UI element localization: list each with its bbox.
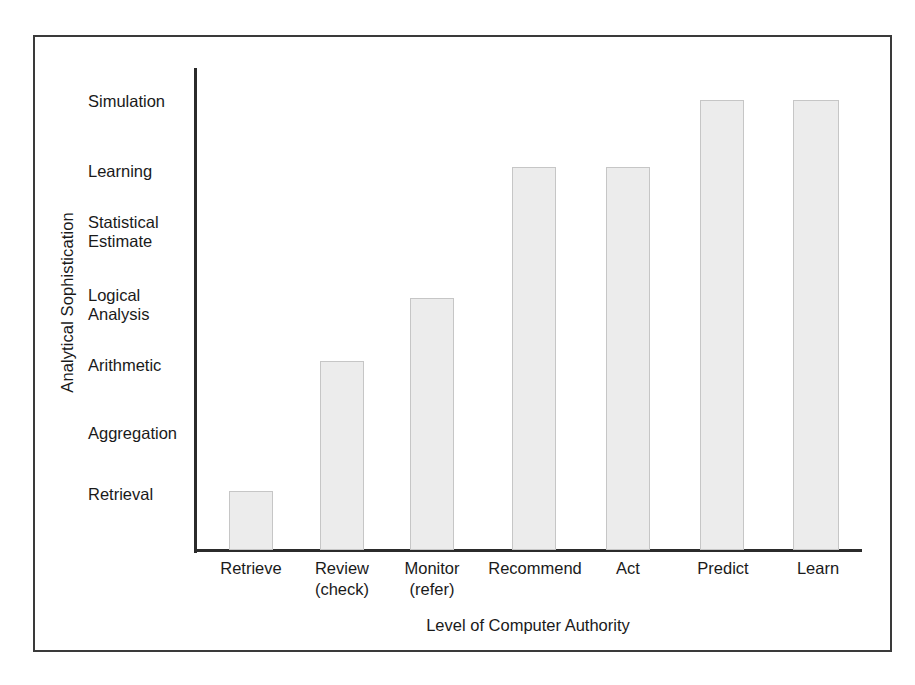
- y-tick-label-text: Retrieval: [88, 485, 186, 504]
- x-tick-label-main: Recommend: [488, 559, 582, 577]
- y-axis-line: [194, 68, 197, 553]
- chart-figure: Analytical Sophistication Simulation Lea…: [0, 0, 915, 685]
- bar-monitor: [410, 298, 454, 550]
- y-tick-learning: Learning: [88, 162, 186, 181]
- y-tick-logical-analysis: Logical Analysis: [88, 286, 186, 324]
- y-tick-label-text: Simulation: [88, 92, 186, 111]
- y-tick-simulation: Simulation: [88, 92, 186, 111]
- x-tick-label-sub: (check): [290, 579, 394, 600]
- x-tick-label-main: Learn: [797, 559, 839, 577]
- bar-act: [606, 167, 650, 550]
- y-tick-retrieval: Retrieval: [88, 485, 186, 504]
- bar-review: [320, 361, 364, 550]
- x-tick-label-main: Monitor: [404, 559, 459, 577]
- x-tick-predict: Predict: [676, 558, 770, 579]
- bar-recommend: [512, 167, 556, 550]
- y-tick-statistical-estimate: Statistical Estimate: [88, 213, 186, 251]
- x-tick-monitor: Monitor (refer): [380, 558, 484, 600]
- x-tick-recommend: Recommend: [470, 558, 600, 579]
- x-tick-review: Review (check): [290, 558, 394, 600]
- y-tick-label-text: Learning: [88, 162, 186, 181]
- y-tick-label-text: Statistical Estimate: [88, 213, 186, 251]
- x-tick-label-main: Review: [315, 559, 369, 577]
- x-tick-label-main: Predict: [697, 559, 748, 577]
- x-tick-retrieve: Retrieve: [199, 558, 303, 579]
- y-tick-aggregation: Aggregation: [88, 424, 186, 443]
- y-tick-arithmetic: Arithmetic: [88, 356, 186, 375]
- bar-predict: [700, 100, 744, 550]
- x-tick-learn: Learn: [772, 558, 864, 579]
- y-tick-label-text: Logical Analysis: [88, 286, 186, 324]
- x-tick-act: Act: [584, 558, 672, 579]
- y-tick-label-text: Aggregation: [88, 424, 186, 443]
- bar-learn: [793, 100, 839, 550]
- x-axis-title: Level of Computer Authority: [194, 616, 862, 635]
- y-axis-title: Analytical Sophistication: [58, 183, 77, 423]
- bar-retrieve: [229, 491, 273, 550]
- x-tick-label-main: Retrieve: [220, 559, 281, 577]
- y-tick-label-text: Arithmetic: [88, 356, 186, 375]
- x-tick-label-main: Act: [616, 559, 640, 577]
- x-tick-label-sub: (refer): [380, 579, 484, 600]
- plot-area: Analytical Sophistication Simulation Lea…: [0, 0, 915, 685]
